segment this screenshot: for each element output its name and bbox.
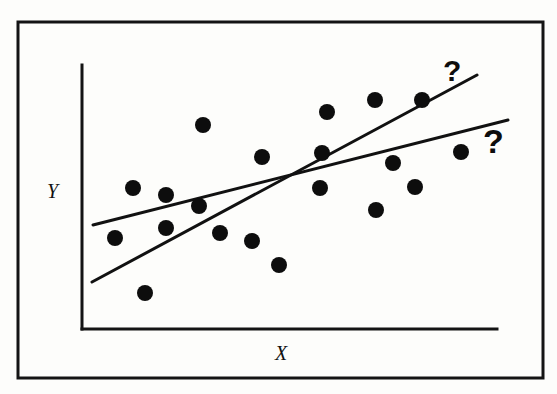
scatter-point <box>367 92 383 108</box>
scatter-point <box>195 117 211 133</box>
scatter-point <box>368 202 384 218</box>
scatter-point <box>212 225 228 241</box>
scatter-point <box>314 145 330 161</box>
scatter-point <box>125 180 141 196</box>
scatter-point <box>107 230 123 246</box>
scatter-point <box>191 198 207 214</box>
scatter-point <box>312 180 328 196</box>
scatter-point <box>137 285 153 301</box>
scatter-point <box>453 144 469 160</box>
figure-background <box>0 0 557 394</box>
scatter-point <box>385 155 401 171</box>
scatter-point <box>244 233 260 249</box>
figure-container: Y X ? ? <box>0 0 557 394</box>
scatter-point <box>407 179 423 195</box>
scatter-point <box>158 187 174 203</box>
y-axis-label: Y <box>47 181 58 201</box>
question-mark-annotation-lower: ? <box>483 124 504 158</box>
scatter-point <box>254 149 270 165</box>
scatter-point <box>271 257 287 273</box>
scatter-point <box>158 220 174 236</box>
scatter-plot-svg <box>0 0 557 394</box>
scatter-point <box>319 104 335 120</box>
question-mark-annotation-upper: ? <box>443 56 461 86</box>
x-axis-label: X <box>275 343 287 363</box>
scatter-point <box>414 92 430 108</box>
